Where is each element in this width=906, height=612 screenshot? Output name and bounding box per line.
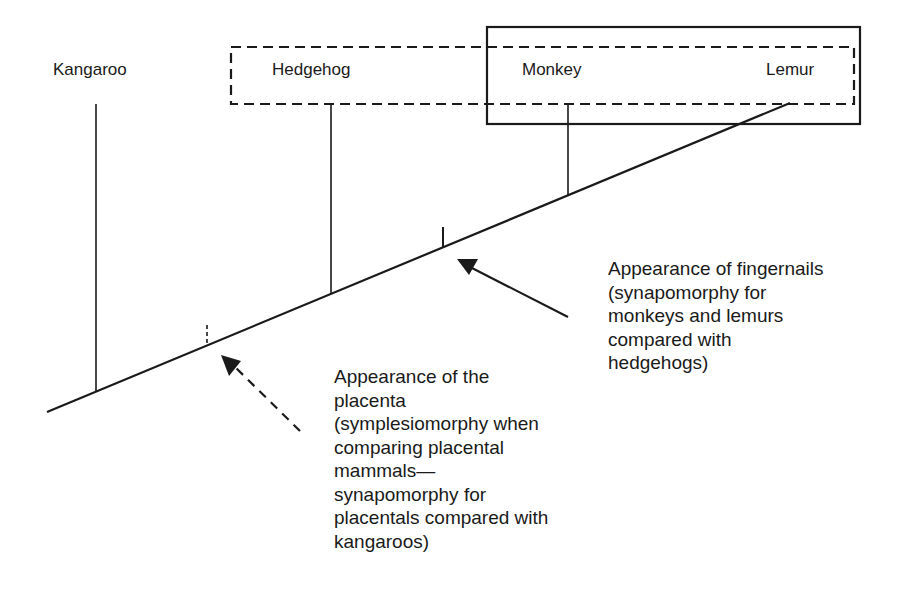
fingernails-annotation: Appearance of fingernails (synapomorphy … — [608, 257, 823, 375]
placenta-arrow-head-icon — [221, 355, 241, 376]
placenta-arrow-shaft — [235, 367, 300, 431]
fingernail-arrow-head-icon — [457, 259, 478, 275]
placenta-annotation: Appearance of the placenta (symplesiomor… — [334, 365, 548, 553]
taxon-label-lemur: Lemur — [766, 60, 814, 80]
taxon-label-kangaroo: Kangaroo — [53, 60, 127, 80]
fingernail-arrow-shaft — [470, 267, 568, 317]
taxon-label-monkey: Monkey — [522, 60, 582, 80]
taxon-label-hedgehog: Hedgehog — [272, 60, 350, 80]
